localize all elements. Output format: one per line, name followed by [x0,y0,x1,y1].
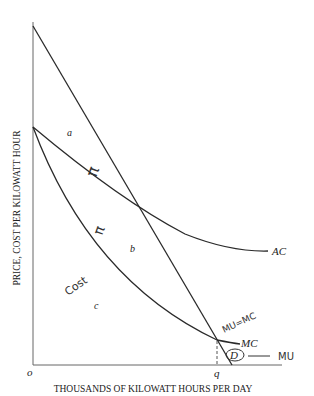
region-a-label: a [67,127,72,138]
mc-curve [33,127,240,344]
y-axis-label: PRICE, COST PER KILOWATT HOUR [12,130,22,286]
x-axis-label: THOUSANDS OF KILOWATT HOURS PER DAY [54,384,253,394]
q-label: q [214,367,220,379]
region-c-label: c [94,300,99,311]
hand-pi-1: π [82,163,103,179]
ac-label: AC [271,245,287,257]
hand-mu: MU [278,351,294,362]
hand-pi-2: π [90,223,108,237]
hand-cost: Cost [62,273,90,298]
hand-mu-mc: MU=MC [221,311,258,335]
demand-line [33,26,232,365]
mc-label: MC [240,337,258,349]
region-b-label: b [130,243,135,254]
ac-curve [33,127,268,251]
chart: o q THOUSANDS OF KILOWATT HOURS PER DAY … [0,0,314,396]
d-label: D [229,349,238,361]
origin-label: o [27,366,33,378]
